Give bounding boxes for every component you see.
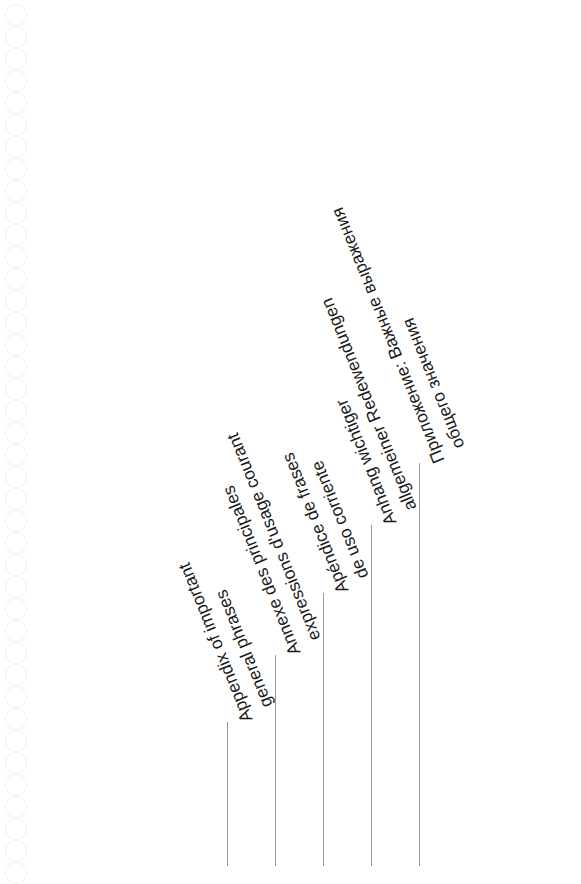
leader-line — [227, 722, 228, 866]
leader-line — [275, 655, 276, 866]
ring-icon — [5, 554, 27, 576]
ring-icon — [5, 510, 27, 532]
ring-icon — [5, 268, 27, 290]
ring-icon — [5, 752, 27, 774]
ring-icon — [5, 334, 27, 356]
ring-icon — [5, 290, 27, 312]
ring-icon — [5, 70, 27, 92]
ring-icon — [5, 598, 27, 620]
ring-icon — [5, 180, 27, 202]
ring-icon — [5, 26, 27, 48]
leader-line — [323, 593, 324, 866]
ring-icon — [5, 488, 27, 510]
ring-icon — [5, 532, 27, 554]
ring-icon — [5, 708, 27, 730]
ring-icon — [5, 840, 27, 862]
ring-icon — [5, 862, 27, 884]
ring-icon — [5, 92, 27, 114]
ring-icon — [5, 48, 27, 70]
ring-icon — [5, 246, 27, 268]
binder-rings — [4, 0, 30, 868]
ring-icon — [5, 664, 27, 686]
ring-icon — [5, 576, 27, 598]
ring-icon — [5, 356, 27, 378]
ring-icon — [5, 774, 27, 796]
ring-icon — [5, 642, 27, 664]
ring-icon — [5, 444, 27, 466]
ring-icon — [5, 224, 27, 246]
ring-icon — [5, 136, 27, 158]
ring-icon — [5, 620, 27, 642]
ring-icon — [5, 686, 27, 708]
leader-line — [371, 525, 372, 866]
ring-icon — [5, 4, 27, 26]
ring-icon — [5, 730, 27, 752]
ring-icon — [5, 466, 27, 488]
ring-icon — [5, 202, 27, 224]
ring-icon — [5, 114, 27, 136]
ring-icon — [5, 422, 27, 444]
ring-icon — [5, 818, 27, 840]
ring-icon — [5, 312, 27, 334]
ring-icon — [5, 400, 27, 422]
ring-icon — [5, 378, 27, 400]
ring-icon — [5, 158, 27, 180]
ring-icon — [5, 796, 27, 818]
leader-line — [419, 463, 420, 866]
